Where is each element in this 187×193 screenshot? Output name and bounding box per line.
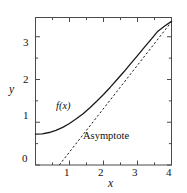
x-tick-label-0: 0 (22, 153, 28, 164)
y-tick-label-3: 3 (23, 37, 29, 48)
fx-curve-label: f(x) (56, 101, 71, 112)
asymptote-label: Asymptote (83, 131, 129, 142)
figure-container: 0 1 2 3 4 1 2 3 x y f(x) Asymptote (0, 0, 187, 193)
y-tick-label-1: 1 (23, 110, 29, 121)
x-tick-label-4: 4 (166, 167, 172, 178)
y-tick-label-2: 2 (23, 74, 29, 85)
x-axis-title: x (108, 178, 113, 190)
asymptote-line (59, 22, 171, 165)
fx-curve (36, 21, 172, 134)
chart-plot-area (0, 0, 187, 193)
x-tick-label-2: 2 (98, 167, 104, 178)
x-tick-label-1: 1 (64, 167, 70, 178)
y-axis-title: y (9, 84, 14, 96)
x-tick-label-3: 3 (132, 167, 138, 178)
